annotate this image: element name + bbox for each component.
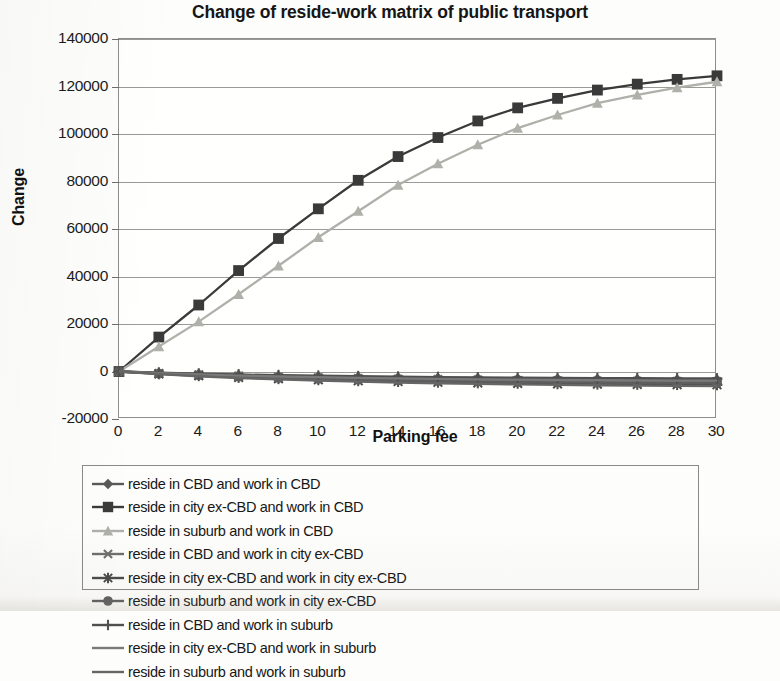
legend-marker-asterisk-icon [91,570,125,586]
y-axis-tick-label: 20000 [22,314,108,332]
legend-label: reside in CBD and work in city ex-CBD [128,546,363,562]
y-axis-tick [112,39,119,40]
x-axis-tick-label: 0 [114,422,122,440]
y-axis-tick [112,87,119,88]
legend-marker-none-icon [91,640,125,656]
x-axis-tick-label: 30 [708,422,725,440]
x-axis-tick-label: 8 [273,422,281,440]
x-axis-tick-label: 24 [588,422,605,440]
x-axis-tick-label: 6 [233,422,241,440]
y-axis-tick [112,182,119,183]
legend-item-reside-in-cbd-and-work-in-cbd[interactable]: reside in CBD and work in CBD [91,472,451,496]
y-axis-tick-label: 60000 [22,219,108,237]
legend-item-reside-in-suburb-and-work-in-cbd[interactable]: reside in suburb and work in CBD [91,519,451,543]
legend-item-reside-in-city-ex-cbd-and-work-in-city-ex-cbd[interactable]: reside in city ex-CBD and work in city e… [91,566,451,590]
plot-area [118,38,716,418]
y-axis-tick [112,229,119,230]
legend-label: reside in CBD and work in suburb [128,617,333,633]
x-axis-tick-label: 14 [389,422,406,440]
legend-marker-triangle-icon [91,523,125,539]
x-axis-tick-label: 26 [628,422,645,440]
legend-marker-none-icon [91,664,125,680]
legend-marker-diamond-icon [91,476,125,492]
legend-label: reside in suburb and work in suburb [128,664,345,680]
scan-edge-smudge [0,596,780,611]
x-axis-tick-label: 10 [309,422,326,440]
y-axis-tick-label: -20000 [22,409,108,427]
legend-item-reside-in-suburb-and-work-in-suburb[interactable]: reside in suburb and work in suburb [91,660,451,681]
chart-title: Change of reside-work matrix of public t… [0,2,780,23]
y-axis-tick [112,134,119,135]
legend-label: reside in CBD and work in CBD [128,476,320,492]
legend-marker-square-icon [91,499,125,515]
y-axis-tick-label: 140000 [22,29,108,47]
x-axis-tick-label: 4 [194,422,202,440]
y-axis-tick [112,419,119,420]
legend-label: reside in city ex-CBD and work in suburb [128,640,376,656]
y-axis-tick-label: 80000 [22,172,108,190]
legend: reside in CBD and work in CBDreside in c… [82,465,699,590]
legend-item-reside-in-cbd-and-work-in-city-ex-cbd[interactable]: reside in CBD and work in city ex-CBD [91,543,332,567]
series-1 [114,70,723,376]
y-axis-tick-label: 0 [22,362,108,380]
x-axis-tick-label: 2 [154,422,162,440]
legend-label: reside in suburb and work in CBD [128,523,333,539]
x-axis-tick-label: 18 [468,422,485,440]
y-axis-tick-label: 100000 [22,124,108,142]
x-axis-tick-label: 16 [429,422,446,440]
x-axis-tick-label: 20 [508,422,525,440]
y-axis-tick [112,277,119,278]
y-axis-tick [112,324,119,325]
legend-item-reside-in-city-ex-cbd-and-work-in-cbd[interactable]: reside in city ex-CBD and work in CBD [91,496,332,520]
x-axis-tick-label: 28 [668,422,685,440]
legend-marker-plus-icon [91,617,125,633]
x-axis-tick-label: 12 [349,422,366,440]
legend-label: reside in city ex-CBD and work in CBD [128,499,363,515]
y-axis-tick-label: 120000 [22,77,108,95]
y-axis-tick-label: 40000 [22,267,108,285]
series-2 [114,76,723,376]
legend-label: reside in city ex-CBD and work in city e… [128,570,406,586]
legend-item-reside-in-cbd-and-work-in-suburb[interactable]: reside in CBD and work in suburb [91,613,451,637]
legend-marker-x-cross-icon [91,546,125,562]
legend-item-reside-in-city-ex-cbd-and-work-in-suburb[interactable]: reside in city ex-CBD and work in suburb [91,637,332,661]
x-axis-tick-label: 22 [548,422,565,440]
series-layer [119,39,717,419]
